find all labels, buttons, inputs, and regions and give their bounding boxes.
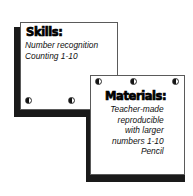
materials-line-1: Teacher-made (101, 104, 164, 115)
skills-line-1: Number recognition (25, 40, 98, 51)
hole-punch-icon (95, 78, 102, 85)
materials-card-title: Materials: (105, 90, 166, 102)
materials-line-3: with larger (101, 125, 164, 136)
hole-punch-icon (25, 97, 32, 104)
materials-line-5: Pencil (101, 146, 164, 157)
hole-punch-icon (172, 78, 179, 85)
materials-card-body: Teacher-made reproducible with larger nu… (101, 104, 164, 157)
materials-card: Materials: Teacher-made reproducible wit… (90, 75, 185, 175)
lesson-plan-cards-figure: Skills: Number recognition Counting 1-10… (0, 0, 193, 196)
hole-punch-icon (68, 97, 75, 104)
skills-line-2: Counting 1-10 (25, 51, 98, 62)
hole-punch-icon (130, 78, 137, 85)
materials-line-2: reproducible (101, 115, 164, 126)
skills-card-title: Skills: (26, 26, 62, 38)
materials-line-4: numbers 1-10 (101, 136, 164, 147)
skills-card-body: Number recognition Counting 1-10 (25, 40, 98, 61)
